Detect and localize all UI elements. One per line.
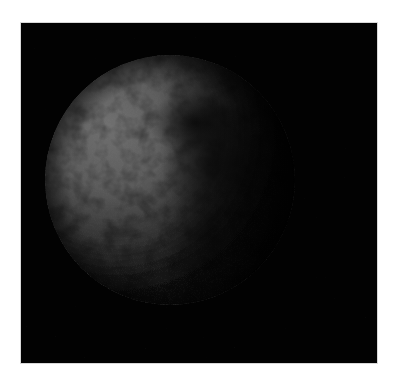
planet-sphere — [45, 55, 295, 305]
page — [0, 0, 397, 385]
image-frame — [21, 23, 377, 363]
planet-image — [21, 23, 377, 363]
